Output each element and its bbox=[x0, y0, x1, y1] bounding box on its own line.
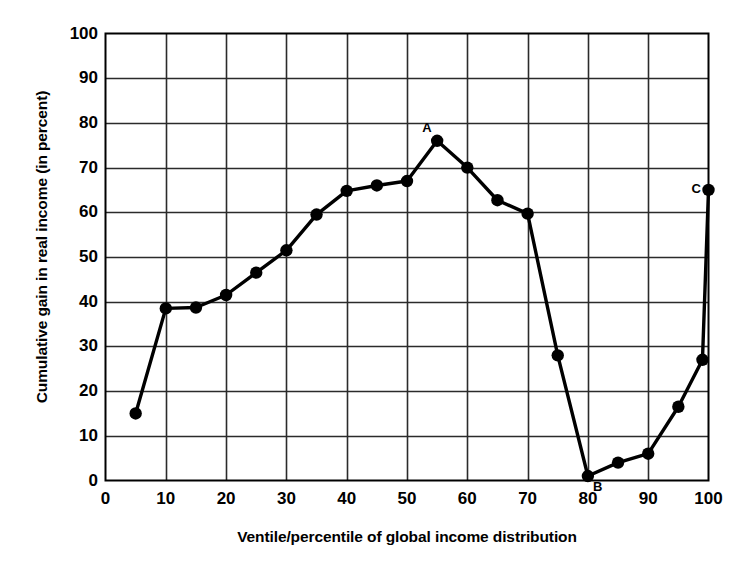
data-point-markers bbox=[129, 135, 714, 483]
annotation-label-c: C bbox=[692, 182, 701, 195]
data-point-marker bbox=[341, 185, 353, 197]
data-point-marker bbox=[310, 208, 322, 220]
chart-container: Cumulative gain in real income (in perce… bbox=[0, 0, 748, 571]
x-axis-tick-labels: 0102030405060708090100 bbox=[0, 490, 748, 516]
data-point-marker bbox=[280, 244, 292, 256]
data-point-marker bbox=[160, 302, 172, 314]
x-tick-label-70: 70 bbox=[498, 490, 558, 507]
annotation-label-a: A bbox=[422, 121, 431, 134]
x-tick-label-0: 0 bbox=[76, 490, 136, 507]
data-point-marker bbox=[696, 354, 708, 366]
data-point-marker bbox=[190, 301, 202, 313]
x-tick-label-20: 20 bbox=[196, 490, 256, 507]
data-point-marker bbox=[642, 447, 654, 459]
x-tick-label-60: 60 bbox=[437, 490, 497, 507]
data-point-marker bbox=[521, 207, 533, 219]
data-point-marker bbox=[612, 456, 624, 468]
data-series-line bbox=[136, 141, 709, 476]
data-point-marker bbox=[672, 401, 684, 413]
data-point-marker bbox=[552, 349, 564, 361]
data-point-marker bbox=[129, 407, 141, 419]
data-point-marker bbox=[461, 161, 473, 173]
data-point-marker bbox=[702, 184, 714, 196]
data-point-marker bbox=[220, 289, 232, 301]
x-tick-label-50: 50 bbox=[377, 490, 437, 507]
x-tick-label-90: 90 bbox=[618, 490, 678, 507]
data-point-marker bbox=[250, 266, 262, 278]
grid-lines bbox=[106, 34, 709, 481]
data-point-marker bbox=[431, 135, 443, 147]
x-tick-label-30: 30 bbox=[256, 490, 316, 507]
data-point-marker bbox=[371, 179, 383, 191]
x-tick-label-100: 100 bbox=[679, 490, 739, 507]
data-point-marker bbox=[401, 175, 413, 187]
x-tick-label-40: 40 bbox=[317, 490, 377, 507]
x-tick-label-80: 80 bbox=[558, 490, 618, 507]
plot-area bbox=[0, 0, 748, 571]
data-point-marker bbox=[491, 194, 503, 206]
x-tick-label-10: 10 bbox=[136, 490, 196, 507]
x-axis-title: Ventile/percentile of global income dist… bbox=[105, 528, 709, 546]
